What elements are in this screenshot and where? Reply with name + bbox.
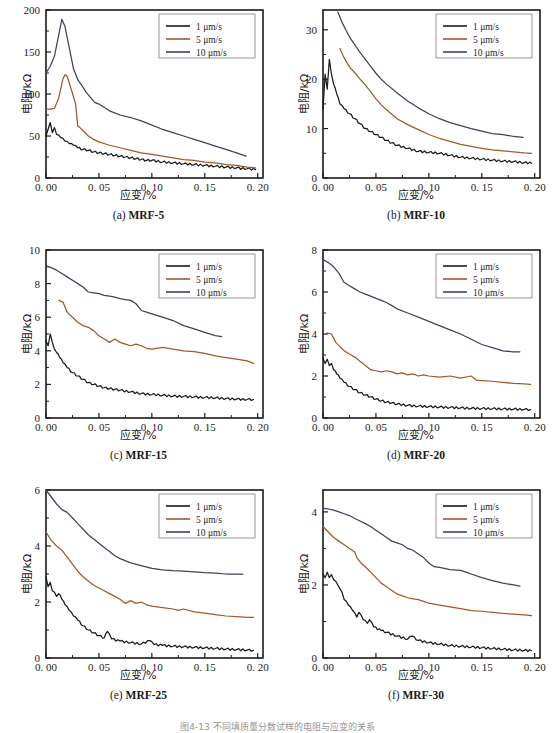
svg-text:4: 4 (312, 506, 318, 518)
svg-text:0: 0 (35, 412, 41, 424)
subplot-name-f: MRF-30 (402, 689, 444, 701)
svg-text:0: 0 (312, 172, 318, 184)
subplot-name-d: MRF-20 (403, 449, 445, 461)
subplot-b: 0. 000. 050. 100. 150. 2001020301 μm/s5 … (277, 0, 555, 240)
series-line-e-1 (46, 532, 253, 617)
subplot-name-c: MRF-15 (126, 449, 168, 461)
svg-text:2: 2 (35, 596, 41, 608)
figure-container: 0. 000. 050. 100. 150. 200501001502001 μ… (0, 0, 555, 733)
legend-label-e-0: 1 μm/s (196, 502, 222, 512)
y-axis-label-d: 电阻/kΩ (295, 314, 311, 354)
subplot-tag-d: (d) (387, 449, 400, 461)
subplot-caption-d: (d) MRF-20 (277, 449, 555, 461)
subplot-tag-a: (a) (113, 209, 126, 221)
svg-text:0: 0 (35, 172, 41, 184)
svg-text:4: 4 (35, 345, 41, 357)
subplot-tag-b: (b) (387, 209, 400, 221)
svg-text:150: 150 (24, 46, 41, 58)
svg-text:8: 8 (35, 278, 41, 290)
legend-label-b-1: 5 μm/s (473, 35, 499, 45)
svg-text:200: 200 (24, 4, 41, 16)
svg-text:0: 0 (312, 412, 318, 424)
svg-text:0: 0 (312, 652, 318, 664)
x-axis-label-d: 应变/% (277, 426, 555, 442)
subplot-e: 0. 000. 050. 100. 150. 2002461 μm/s5 μm/… (0, 480, 277, 720)
y-axis-label-c: 电阻/kΩ (18, 314, 34, 354)
svg-text:6: 6 (35, 311, 41, 323)
svg-text:4: 4 (35, 540, 41, 552)
subplot-tag-c: (c) (110, 449, 123, 461)
y-axis-label-f: 电阻/kΩ (295, 554, 311, 594)
svg-text:10: 10 (306, 123, 318, 135)
x-axis-label-b: 应变/% (277, 186, 555, 202)
legend-label-c-2: 10 μm/s (196, 288, 227, 298)
series-line-f-1 (323, 527, 532, 616)
subplot-a: 0. 000. 050. 100. 150. 200501001502001 μ… (0, 0, 277, 240)
x-axis-label-c: 应变/% (0, 426, 277, 442)
series-line-f-0 (323, 572, 532, 651)
svg-text:2: 2 (312, 370, 318, 382)
svg-text:10: 10 (29, 244, 41, 256)
plot-area-e: 0. 000. 050. 100. 150. 2002461 μm/s5 μm/… (0, 480, 277, 692)
legend-label-e-1: 5 μm/s (196, 515, 222, 525)
x-axis-label-e: 应变/% (0, 666, 277, 682)
plot-area-c: 0. 000. 050. 100. 150. 2002468101 μm/s5 … (0, 240, 277, 452)
svg-text:30: 30 (306, 24, 318, 36)
legend-label-f-2: 10 μm/s (473, 528, 504, 538)
subplot-c: 0. 000. 050. 100. 150. 2002468101 μm/s5 … (0, 240, 277, 480)
subplot-caption-b: (b) MRF-10 (277, 209, 555, 221)
plot-area-b: 0. 000. 050. 100. 150. 2001020301 μm/s5 … (277, 0, 555, 212)
series-line-d-1 (327, 333, 530, 384)
y-axis-label-a: 电阻/kΩ (18, 74, 34, 114)
subplot-f: 0. 000. 050. 100. 150. 200241 μm/s5 μm/s… (277, 480, 555, 720)
series-line-e-0 (46, 577, 253, 651)
legend-label-d-0: 1 μm/s (473, 262, 499, 272)
svg-text:8: 8 (312, 244, 318, 256)
series-line-a-0 (46, 123, 256, 171)
series-line-b-0 (323, 59, 532, 163)
x-axis-label-f: 应变/% (277, 666, 555, 682)
subplot-caption-e: (e) MRF-25 (0, 689, 277, 701)
plot-area-a: 0. 000. 050. 100. 150. 200501001502001 μ… (0, 0, 277, 212)
legend-label-b-2: 10 μm/s (473, 48, 504, 58)
series-line-c-1 (59, 300, 254, 363)
legend-label-c-0: 1 μm/s (196, 262, 222, 272)
svg-text:2: 2 (312, 579, 318, 591)
legend-label-a-1: 5 μm/s (196, 35, 222, 45)
subplot-name-b: MRF-10 (403, 209, 445, 221)
legend-label-d-2: 10 μm/s (473, 288, 504, 298)
series-line-d-0 (323, 358, 530, 410)
svg-text:6: 6 (312, 286, 318, 298)
subplot-tag-f: (f) (388, 689, 400, 701)
y-axis-label-b: 电阻/kΩ (295, 74, 311, 114)
svg-text:2: 2 (35, 378, 41, 390)
subplot-name-a: MRF-5 (128, 209, 164, 221)
legend-label-e-2: 10 μm/s (196, 528, 227, 538)
svg-text:4: 4 (312, 328, 318, 340)
subplot-d: 0. 000. 050. 100. 150. 20024681 μm/s5 μm… (277, 240, 555, 480)
legend-label-f-0: 1 μm/s (473, 502, 499, 512)
plot-area-f: 0. 000. 050. 100. 150. 200241 μm/s5 μm/s… (277, 480, 555, 692)
svg-text:50: 50 (29, 130, 41, 142)
series-line-a-1 (46, 75, 256, 168)
legend-label-d-1: 5 μm/s (473, 275, 499, 285)
svg-text:6: 6 (35, 484, 41, 496)
figure-caption: 图4-13 不同填质量分数试样的电阻与应变的关系 (0, 720, 555, 733)
subplot-caption-c: (c) MRF-15 (0, 449, 277, 461)
legend-label-f-1: 5 μm/s (473, 515, 499, 525)
y-axis-label-e: 电阻/kΩ (18, 554, 34, 594)
legend-label-a-2: 10 μm/s (196, 48, 227, 58)
svg-text:0: 0 (35, 652, 41, 664)
subplot-caption-f: (f) MRF-30 (277, 689, 555, 701)
subplot-name-e: MRF-25 (126, 689, 168, 701)
legend-label-c-1: 5 μm/s (196, 275, 222, 285)
legend-label-a-0: 1 μm/s (196, 22, 222, 32)
subplot-caption-a: (a) MRF-5 (0, 209, 277, 221)
plot-area-d: 0. 000. 050. 100. 150. 20024681 μm/s5 μm… (277, 240, 555, 452)
series-line-c-0 (46, 334, 253, 400)
legend-label-b-0: 1 μm/s (473, 22, 499, 32)
x-axis-label-a: 应变/% (0, 186, 277, 202)
subplot-tag-e: (e) (110, 689, 123, 701)
